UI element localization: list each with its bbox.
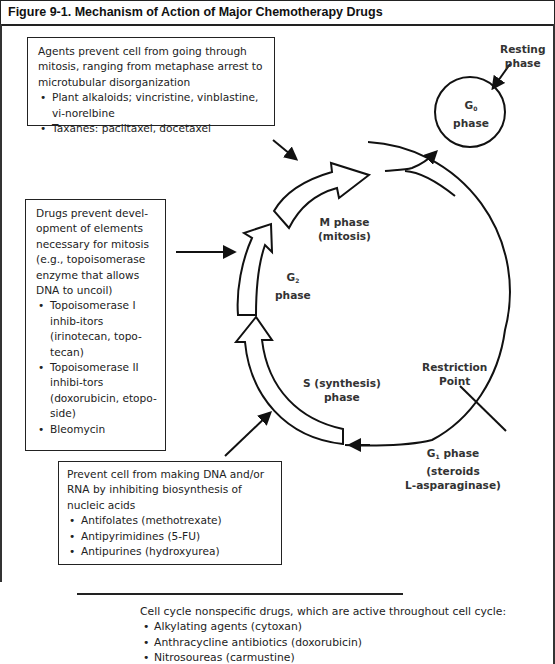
m-phase-label: M phase (mitosis) [318,215,371,243]
section-divider [77,593,403,595]
g2-drugs-box: Drugs prevent devel-opment of elements n… [25,199,166,451]
g2-word: phase [275,288,311,302]
mitosis-agents-intro: Agents prevent cell from going through m… [38,44,268,90]
list-item: Anthracycline antibiotics (doxorubicin) [140,635,506,650]
nonspecific-drugs-section: Cell cycle nonspecific drugs, which are … [140,604,506,664]
list-item: Antipyrimidines (5-FU) [67,529,277,544]
list-item: Antifolates (methotrexate) [67,513,277,528]
g0-phase-label: G0 phase [451,98,491,130]
nonspecific-intro: Cell cycle nonspecific drugs, which are … [140,604,506,619]
g1-phase-label: G1 phase (steroids L-asparaginase) [405,446,501,492]
list-item: Plant alkaloids; vincristine, vinblastin… [38,90,268,121]
g2-phase-block-arrow [238,224,272,315]
s-line1: S (synthesis) [303,376,381,390]
list-item: Nitrosoureas (carmustine) [140,650,506,664]
box3-arrow [225,413,270,456]
list-item: Topoisomerase I inhib-itors (irinotecan,… [36,298,161,360]
list-item: Topoisomerase II inhibi-tors (doxorubici… [36,360,161,422]
g1-line3: L-asparaginase) [405,478,501,492]
g2-symbol: G2 [275,270,311,288]
list-item: Bleomycin [36,422,161,437]
g0-word: phase [451,116,491,130]
g2-phase-label: G2 phase [275,270,311,302]
list-item: Antipurines (hydroxyurea) [67,544,277,559]
m-line2: (mitosis) [318,229,371,243]
resting-phase-label: Resting phase [500,42,545,70]
s-phase-drugs-intro: Prevent cell from making DNA and/or RNA … [67,467,277,513]
g1-symbol: G1 phase [405,446,501,464]
mitosis-agents-list: Plant alkaloids; vincristine, vinblastin… [38,90,268,136]
g2-drugs-intro: Drugs prevent devel-opment of elements n… [36,206,161,298]
s-phase-drugs-box: Prevent cell from making DNA and/or RNA … [58,461,282,565]
g0-symbol: G0 [451,98,491,116]
s-phase-label: S (synthesis) phase [303,376,381,404]
restriction-line1: Restriction [422,360,487,374]
m-line1: M phase [318,215,371,229]
restriction-line2: Point [422,374,487,388]
mitosis-agents-box: Agents prevent cell from going through m… [27,37,275,126]
resting-line2: phase [500,56,545,70]
restriction-point-label: Restriction Point [422,360,487,388]
nonspecific-list: Alkylating agents (cytoxan) Anthracyclin… [140,619,506,664]
branch-to-g0 [385,152,436,171]
g2-drugs-list: Topoisomerase I inhib-itors (irinotecan,… [36,298,161,437]
s-line2: phase [303,390,381,404]
resting-line1: Resting [500,42,545,56]
list-item: Alkylating agents (cytoxan) [140,619,506,634]
s-phase-drugs-list: Antifolates (methotrexate) Antipyrimidin… [67,513,277,559]
box1-arrow [273,140,296,159]
list-item: Taxanes: paclitaxel, docetaxel [38,121,268,136]
g1-line2: (steroids [405,464,501,478]
